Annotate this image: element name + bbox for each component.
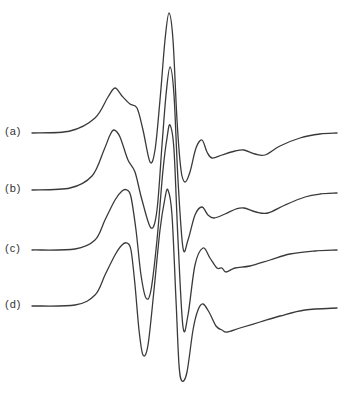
label-a: (a) — [5, 125, 21, 137]
spectra-figure: (a) (b) (c) (d) — [0, 0, 348, 396]
trace-b — [32, 67, 337, 252]
label-b: (b) — [5, 182, 21, 194]
label-c: (c) — [5, 242, 21, 254]
trace-d — [32, 189, 337, 381]
trace-a — [32, 13, 337, 182]
trace-c — [32, 125, 337, 332]
spectra-plot — [0, 0, 348, 396]
label-d: (d) — [5, 298, 21, 310]
